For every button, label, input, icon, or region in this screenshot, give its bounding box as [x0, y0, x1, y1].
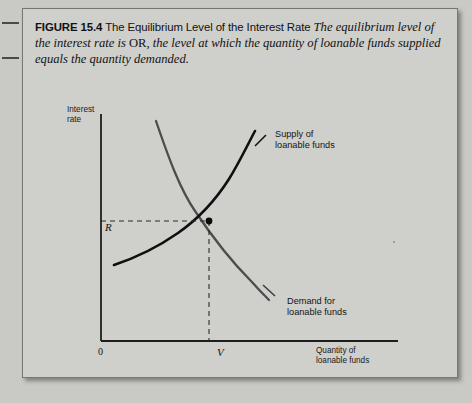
y-axis-equilibrium-tick-label: R — [105, 221, 112, 233]
supply-curve — [114, 131, 255, 265]
chart-plot-area: Interest rate Quantity of loanable funds… — [23, 9, 459, 379]
demand-curve-label: Demand for loanable funds — [287, 296, 347, 318]
demand-curve — [156, 121, 269, 300]
origin-label: 0 — [98, 346, 103, 357]
page-margin-tick-top — [2, 22, 19, 24]
x-axis-equilibrium-tick-label: V — [217, 346, 224, 358]
chart-axes — [101, 114, 398, 341]
supply-curve-label: Supply of loanable funds — [275, 129, 335, 151]
equilibrium-point-marker — [206, 218, 213, 225]
figure-panel: FIGURE 15.4 The Equilibrium Level of the… — [22, 8, 458, 378]
paper-speck — [393, 241, 395, 243]
y-axis-title: Interest rate — [67, 105, 94, 124]
page-margin-tick-bottom — [2, 57, 19, 59]
x-axis-title: Quantity of loanable funds — [316, 346, 369, 365]
supply-label-leader — [255, 135, 266, 146]
